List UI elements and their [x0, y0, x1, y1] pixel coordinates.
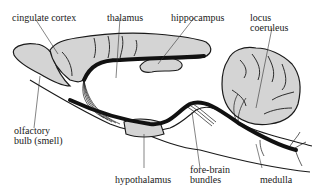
label-medulla: medulla	[260, 175, 292, 185]
label-hypothalamus: hypothalamus	[115, 175, 171, 185]
label-thalamus: thalamus	[107, 13, 143, 23]
label-fore-brain-bundles-2: bundles	[190, 175, 221, 185]
label-locus-coeruleus-2: coeruleus	[250, 23, 288, 33]
label-olfactory-bulb-2: bulb (smell)	[14, 136, 63, 146]
brain-diagram: cingulate cortex thalamus hippocampus lo…	[0, 0, 317, 194]
label-cingulate-cortex: cingulate cortex	[12, 13, 76, 23]
cerebellum-shape	[222, 48, 300, 125]
label-hippocampus: hippocampus	[171, 13, 224, 23]
